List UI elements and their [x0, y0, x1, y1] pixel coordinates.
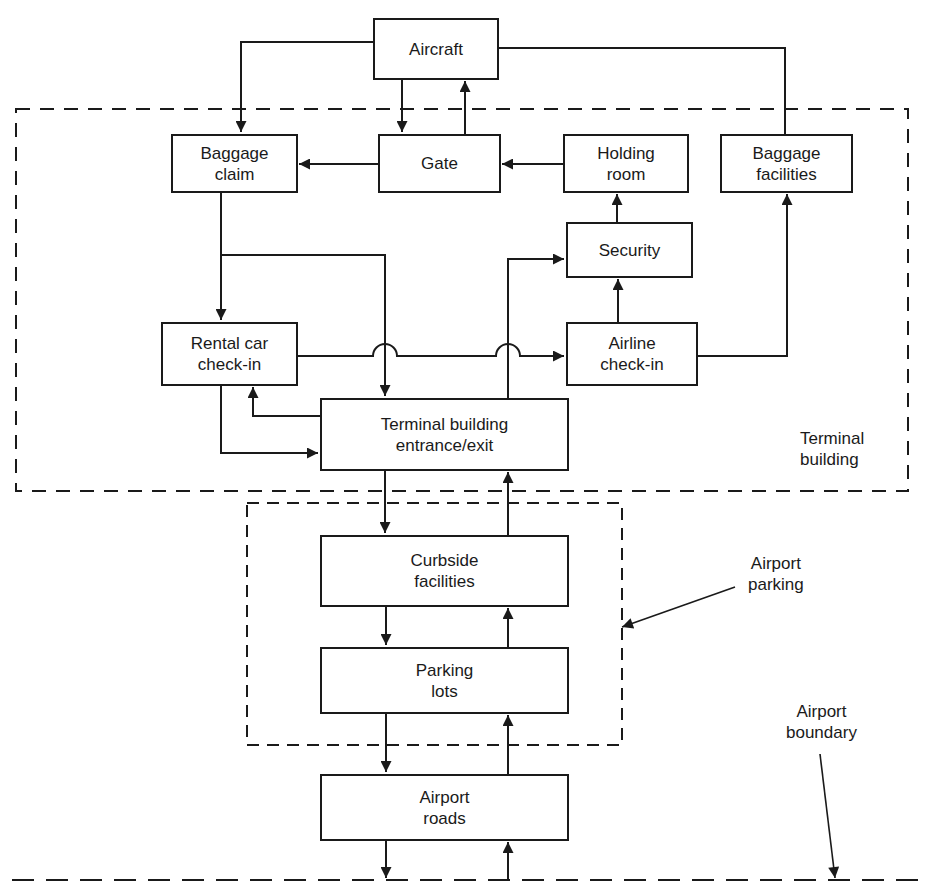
- node-terminal-line1: Terminal building: [381, 414, 509, 435]
- node-parking-line2: lots: [431, 681, 457, 702]
- terminal-building-label-line2: building: [800, 449, 864, 470]
- node-curbside-line2: facilities: [414, 571, 474, 592]
- node-rental-car-line2: check-in: [198, 354, 261, 375]
- node-airline-checkin-line2: check-in: [600, 354, 663, 375]
- airport-parking-label-line1: Airport: [748, 553, 804, 574]
- node-baggage-facilities-line2: facilities: [756, 164, 816, 185]
- node-airline-checkin-line1: Airline: [608, 333, 655, 354]
- node-baggage-facilities-line1: Baggage: [752, 143, 820, 164]
- airport-parking-label-line2: parking: [748, 574, 804, 595]
- node-roads-line1: Airport: [419, 787, 469, 808]
- airport-boundary-label-line1: Airport: [786, 701, 857, 722]
- node-baggage-facilities[interactable]: Baggage facilities: [720, 134, 853, 193]
- node-parking-lots[interactable]: Parking lots: [320, 647, 569, 714]
- node-airport-roads[interactable]: Airport roads: [320, 774, 569, 841]
- airport-parking-label: Airport parking: [748, 553, 804, 595]
- terminal-building-label-line1: Terminal: [800, 428, 864, 449]
- node-rental-car-line1: Rental car: [191, 333, 268, 354]
- node-aircraft-label: Aircraft: [409, 39, 463, 60]
- node-roads-line2: roads: [423, 808, 466, 829]
- node-baggage-claim[interactable]: Baggage claim: [171, 134, 298, 193]
- airport-boundary-label-line2: boundary: [786, 722, 857, 743]
- terminal-building-label: Terminal building: [800, 428, 864, 470]
- node-baggage-claim-line1: Baggage: [200, 143, 268, 164]
- airport-system-diagram: Aircraft Baggage claim Gate Holding room…: [0, 0, 925, 891]
- node-terminal-line2: entrance/exit: [396, 435, 493, 456]
- node-parking-line1: Parking: [416, 660, 474, 681]
- node-baggage-claim-line2: claim: [215, 164, 255, 185]
- node-security-label: Security: [599, 240, 660, 261]
- node-curbside-line1: Curbside: [410, 550, 478, 571]
- node-gate[interactable]: Gate: [378, 134, 501, 193]
- node-holding-room-line1: Holding: [597, 143, 655, 164]
- node-holding-room[interactable]: Holding room: [563, 134, 689, 193]
- node-airline-checkin[interactable]: Airline check-in: [566, 322, 698, 386]
- node-holding-room-line2: room: [607, 164, 646, 185]
- node-rental-car-checkin[interactable]: Rental car check-in: [161, 322, 298, 386]
- airport-boundary-label: Airport boundary: [786, 701, 857, 743]
- node-aircraft[interactable]: Aircraft: [373, 18, 499, 80]
- node-terminal-entrance-exit[interactable]: Terminal building entrance/exit: [320, 398, 569, 471]
- node-gate-label: Gate: [421, 153, 458, 174]
- node-curbside-facilities[interactable]: Curbside facilities: [320, 535, 569, 607]
- node-security[interactable]: Security: [566, 222, 693, 278]
